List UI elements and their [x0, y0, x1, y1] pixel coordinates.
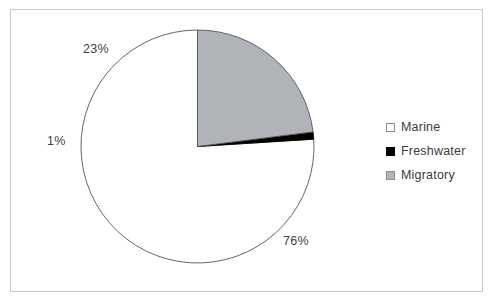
migratory-swatch-icon — [386, 171, 395, 180]
data-label-marine: 76% — [283, 234, 309, 248]
legend-item-freshwater[interactable]: Freshwater — [386, 139, 481, 163]
marine-swatch-icon — [386, 123, 395, 132]
legend-label-freshwater: Freshwater — [401, 144, 466, 158]
chart-frame: 23% 1% 76% Marine Freshwater Migratory — [10, 9, 483, 292]
data-label-freshwater: 1% — [47, 134, 66, 148]
data-label-migratory: 23% — [83, 42, 109, 56]
legend-item-migratory[interactable]: Migratory — [386, 163, 481, 187]
freshwater-swatch-icon — [386, 147, 395, 156]
chart-legend: Marine Freshwater Migratory — [386, 115, 481, 187]
legend-label-migratory: Migratory — [401, 168, 455, 182]
pie-slice-migratory[interactable] — [198, 30, 314, 147]
pie-chart-plot-area: 23% 1% 76% Marine Freshwater Migratory — [11, 10, 484, 293]
legend-item-marine[interactable]: Marine — [386, 115, 481, 139]
legend-label-marine: Marine — [401, 120, 440, 134]
